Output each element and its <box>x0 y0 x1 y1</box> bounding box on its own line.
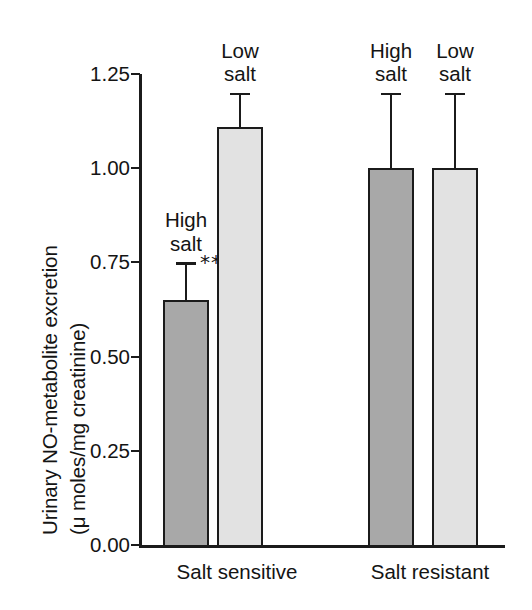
y-tick-label: 0.25 <box>66 441 130 462</box>
error-bar-stem <box>239 93 242 127</box>
y-tick-mark <box>131 167 140 169</box>
group-label: Salt resistant <box>320 560 532 584</box>
bar <box>368 168 414 547</box>
y-tick-label: 1.25 <box>66 64 130 85</box>
error-bar-stem <box>454 93 457 168</box>
group-label: Salt sensitive <box>127 560 347 584</box>
bar <box>163 300 209 547</box>
bar-label-line-1: Low <box>221 39 259 62</box>
error-bar-cap <box>445 93 465 96</box>
bar-label-line-1: High <box>165 208 207 231</box>
bar-top-label: Lowsalt <box>395 39 515 85</box>
bar-chart-figure: Urinary NO-metabolite excretion (μ moles… <box>0 0 532 610</box>
y-tick-label: 1.00 <box>66 158 130 179</box>
bar <box>432 168 478 547</box>
y-tick-label: 0.75 <box>66 252 130 273</box>
error-bar-cap <box>381 93 401 96</box>
y-tick-mark <box>131 73 140 75</box>
error-bar-stem <box>185 262 188 300</box>
error-bar-cap <box>230 93 250 96</box>
y-tick-label: 0.50 <box>66 347 130 368</box>
y-axis-title-line-1: Urinary NO-metabolite excretion <box>38 245 62 535</box>
error-bar-cap <box>176 262 196 265</box>
bar <box>217 127 263 547</box>
y-tick-mark <box>131 356 140 358</box>
y-tick-mark <box>131 450 140 452</box>
bar-label-line-2: salt <box>439 62 471 85</box>
y-tick-mark <box>131 544 140 546</box>
y-tick-label: 0.00 <box>66 535 130 556</box>
bar-label-line-2: salt <box>170 232 202 255</box>
error-bar-stem <box>390 93 393 168</box>
bar-label-line-2: salt <box>224 62 256 85</box>
bar-top-label: Lowsalt <box>180 39 300 85</box>
y-tick-mark <box>131 261 140 263</box>
y-axis-line <box>139 74 142 548</box>
y-axis-tick-labels: 0.000.250.500.751.001.25 <box>66 0 130 610</box>
plot-area: Highsalt**LowsaltHighsaltLowsalt <box>139 74 505 545</box>
bar-label-line-1: Low <box>436 39 474 62</box>
